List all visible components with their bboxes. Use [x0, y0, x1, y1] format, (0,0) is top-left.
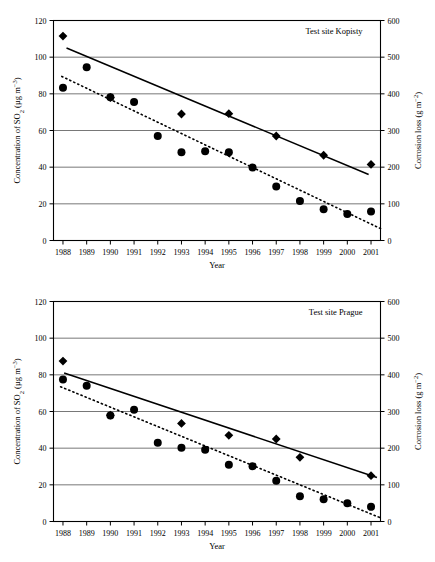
- xtick-label-1998: 1998: [292, 529, 308, 538]
- data-point-circle-1988: [59, 84, 67, 92]
- xtick-label-1988: 1988: [55, 248, 71, 257]
- xtick-label-1988: 1988: [55, 529, 71, 538]
- ytick-label-right-100: 100: [388, 200, 400, 209]
- xtick-label-2001: 2001: [363, 529, 379, 538]
- ytick-label-left-120: 120: [35, 298, 47, 307]
- xtick-label-1993: 1993: [173, 529, 189, 538]
- xtick-label-1993: 1993: [173, 248, 189, 257]
- ytick-label-right-400: 400: [388, 371, 400, 380]
- xtick-label-1989: 1989: [79, 529, 95, 538]
- y2-axis-sup: −2: [412, 376, 419, 383]
- data-point-circle-1994: [201, 446, 209, 454]
- ytick-label-left-120: 120: [35, 17, 47, 26]
- data-point-circle-1996: [249, 164, 257, 172]
- data-point-circle-1993: [177, 444, 185, 452]
- data-point-circle-2001: [367, 503, 375, 511]
- x-axis-title: Year: [209, 541, 225, 551]
- data-point-circle-2001: [367, 208, 375, 216]
- ytick-label-left-0: 0: [43, 237, 47, 246]
- data-point-diamond-1998: [296, 453, 305, 462]
- xtick-label-1996: 1996: [245, 529, 261, 538]
- ytick-label-right-200: 200: [388, 444, 400, 453]
- xtick-label-1994: 1994: [197, 248, 213, 257]
- chart-panel-prague: 0204060801001200100200300400500600198819…: [0, 281, 435, 562]
- xtick-label-1994: 1994: [197, 529, 213, 538]
- ytick-label-right-600: 600: [388, 17, 400, 26]
- xtick-label-1995: 1995: [221, 248, 237, 257]
- y-axis-title-left: Concentration of SO2 (µg m−3): [11, 77, 25, 183]
- xtick-label-1992: 1992: [150, 248, 166, 257]
- chart-svg-kopisty: 0204060801001200100200300400500600198819…: [0, 0, 435, 281]
- data-point-circle-1991: [130, 406, 138, 414]
- data-point-circle-1990: [106, 93, 114, 101]
- data-point-circle-1998: [296, 492, 304, 500]
- xtick-label-1992: 1992: [150, 529, 166, 538]
- data-point-diamond-1993: [177, 110, 186, 119]
- data-point-diamond-1988: [59, 357, 68, 366]
- data-point-circle-1989: [83, 63, 91, 71]
- xtick-label-1991: 1991: [126, 529, 142, 538]
- data-point-circle-2000: [343, 499, 351, 507]
- y2-axis-sup: −2: [412, 95, 419, 102]
- y-axis-sub: 2: [18, 391, 25, 394]
- data-point-circle-1997: [272, 477, 280, 485]
- data-point-circle-2000: [343, 210, 351, 218]
- data-point-circle-1989: [83, 382, 91, 390]
- figure-container: 0204060801001200100200300400500600198819…: [0, 0, 435, 562]
- data-point-circle-1998: [296, 197, 304, 205]
- ytick-label-right-0: 0: [388, 518, 392, 527]
- ytick-label-right-200: 200: [388, 163, 400, 172]
- site-label: Test site Prague: [309, 307, 363, 317]
- data-point-diamond-1988: [59, 32, 68, 41]
- ytick-label-right-500: 500: [388, 53, 400, 62]
- y-axis-sup: −3: [11, 361, 18, 368]
- xtick-label-1999: 1999: [316, 248, 332, 257]
- data-point-circle-1999: [320, 495, 328, 503]
- ytick-label-left-100: 100: [35, 53, 47, 62]
- data-point-diamond-1997: [272, 132, 281, 141]
- data-point-circle-1995: [225, 461, 233, 469]
- ytick-label-right-100: 100: [388, 481, 400, 490]
- xtick-label-1996: 1996: [245, 248, 261, 257]
- data-point-diamond-1995: [224, 431, 233, 440]
- ytick-label-left-20: 20: [39, 481, 47, 490]
- ytick-label-right-0: 0: [388, 237, 392, 246]
- ytick-label-left-20: 20: [39, 200, 47, 209]
- data-point-circle-1992: [154, 439, 162, 447]
- data-point-circle-1988: [59, 375, 67, 383]
- trendline-so2-trend: [61, 387, 381, 518]
- ytick-label-left-60: 60: [39, 408, 47, 417]
- ytick-label-right-400: 400: [388, 90, 400, 99]
- data-point-diamond-2001: [367, 471, 376, 480]
- ytick-label-left-100: 100: [35, 334, 47, 343]
- data-point-circle-1999: [320, 205, 328, 213]
- chart-panel-kopisty: 0204060801001200100200300400500600198819…: [0, 0, 435, 281]
- xtick-label-1991: 1991: [126, 248, 142, 257]
- ytick-label-left-80: 80: [39, 371, 47, 380]
- y-axis-title-right: Corrosion loss (g m−2): [412, 92, 424, 169]
- xtick-label-1999: 1999: [316, 529, 332, 538]
- data-point-diamond-1993: [177, 419, 186, 428]
- data-point-circle-1993: [177, 148, 185, 156]
- x-axis-title: Year: [209, 260, 225, 270]
- ytick-label-left-80: 80: [39, 90, 47, 99]
- chart-svg-prague: 0204060801001200100200300400500600198819…: [0, 281, 435, 562]
- y-axis-sup: −3: [11, 80, 18, 87]
- data-point-circle-1995: [225, 148, 233, 156]
- y-axis-sub: 2: [18, 110, 25, 113]
- xtick-label-2000: 2000: [339, 248, 355, 257]
- xtick-label-1989: 1989: [79, 248, 95, 257]
- y-axis-title-right: Corrosion loss (g m−2): [412, 373, 424, 450]
- xtick-label-1990: 1990: [102, 529, 118, 538]
- xtick-label-2000: 2000: [339, 529, 355, 538]
- xtick-label-1990: 1990: [102, 248, 118, 257]
- xtick-label-1997: 1997: [268, 529, 284, 538]
- data-point-circle-1996: [249, 462, 257, 470]
- site-label: Test site Kopisty: [305, 26, 363, 36]
- data-point-circle-1994: [201, 147, 209, 155]
- data-point-circle-1991: [130, 98, 138, 106]
- xtick-label-2001: 2001: [363, 248, 379, 257]
- trendline-corrosion-trend: [64, 373, 377, 478]
- ytick-label-right-300: 300: [388, 127, 400, 136]
- data-point-circle-1990: [106, 412, 114, 420]
